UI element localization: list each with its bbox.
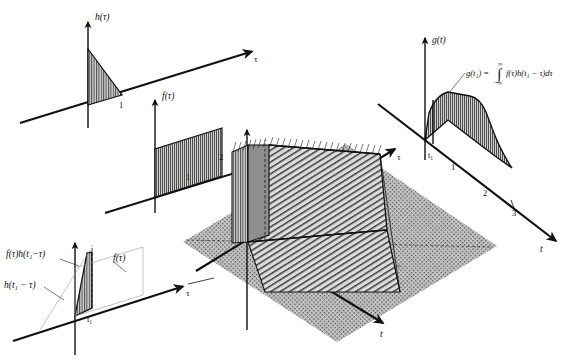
h-flipped-label-leader <box>44 287 64 300</box>
h-tau-horizontal-axis <box>20 53 247 123</box>
f-tau-tick-2: 2 <box>219 152 223 162</box>
product-axis-arrow <box>178 287 183 289</box>
integral-upper-limit: ∞ <box>498 60 503 67</box>
g-t-equation-leader <box>449 73 465 93</box>
f-tau-rectangle <box>155 128 222 197</box>
g-t-tick-2: 2 <box>483 188 487 198</box>
h-tau-axis-arrow <box>247 52 252 54</box>
surface-plane-stub <box>188 278 214 284</box>
product-area <box>75 252 92 316</box>
g-t-output-curve <box>425 92 512 168</box>
surface-t-label: t <box>380 329 383 339</box>
g-t-tick-1: 1 <box>451 162 455 172</box>
product-tick-t1: t₁ <box>87 314 92 324</box>
surface-tau-axis-stub <box>196 259 216 271</box>
surface-tau-arrow <box>390 149 395 152</box>
surface-slice-slab <box>232 145 248 243</box>
g-t-axis-arrow <box>552 238 556 241</box>
f-tau-tick-1: 1 <box>186 172 190 182</box>
g-t-horizontal-axis-label: t <box>540 244 543 254</box>
product-panel: f(τ)h(t₁−τ) h(t₁ − τ) f(τ) τ t₁ <box>4 243 190 355</box>
convolution-surface-panel: τ t <box>183 130 497 342</box>
h-tau-tick-1: 1 <box>119 100 123 110</box>
surface-slice-face <box>248 145 269 242</box>
convolution-figure: h(τ) τ 1 f(τ) τ 1 2 τ t <box>0 0 568 361</box>
surface-tau-label: τ <box>397 152 401 162</box>
h-flipped-label: h(t₁ − τ) <box>4 280 36 291</box>
h-tau-panel: h(τ) τ 1 <box>20 12 258 128</box>
h-tau-triangle <box>88 49 122 105</box>
integral-lower-limit: −∞ <box>494 79 503 86</box>
h-tau-horizontal-axis-label: τ <box>254 54 258 64</box>
f-tau-label-leader <box>114 262 126 272</box>
product-horizontal-axis <box>13 288 178 341</box>
g-t-equation: g(t₁) = ∫ −∞ ∞ f(τ)h(t₁ − τ)dτ <box>466 60 554 86</box>
equation-lhs: g(t₁) = <box>466 68 489 78</box>
g-t-axis-label: g(t) <box>432 35 446 46</box>
g-t-tick-3: 3 <box>512 208 516 218</box>
product-horizontal-axis-label: τ <box>186 288 190 298</box>
integrand: f(τ)h(t₁ − τ)dτ <box>506 68 554 78</box>
product-label: f(τ)h(t₁−τ) <box>6 249 45 260</box>
f-tau-ghost-label: f(τ) <box>113 253 125 264</box>
product-label-leader <box>60 259 79 266</box>
g-t-tick-t1: t₁ <box>428 150 433 160</box>
figure-canvas: h(τ) τ 1 f(τ) τ 1 2 τ t <box>0 0 568 361</box>
surface-t-arrow <box>378 320 383 323</box>
f-tau-axis-label: f(τ) <box>162 91 174 102</box>
h-tau-axis-label: h(τ) <box>95 12 109 23</box>
